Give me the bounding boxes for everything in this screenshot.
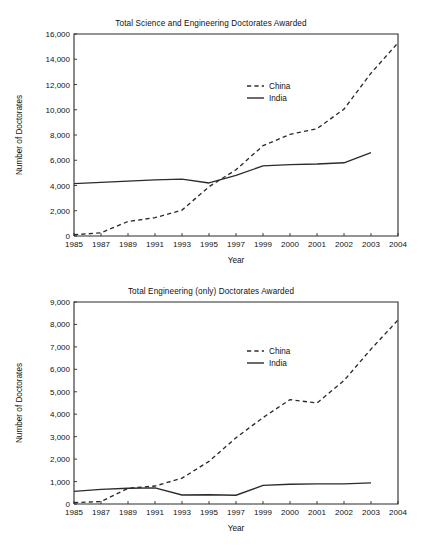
x-tick-label: 2003 (362, 508, 380, 517)
chart-svg: 02,0004,0006,0008,00010,00012,00014,0001… (0, 28, 422, 278)
x-tick-label: 2000 (281, 508, 299, 517)
x-tick-label: 2001 (308, 508, 326, 517)
x-tick-label: 1993 (173, 508, 191, 517)
x-tick-label: 2000 (281, 240, 299, 249)
x-tick-label: 1989 (119, 508, 137, 517)
y-tick-label: 4,000 (50, 182, 71, 191)
chart-svg: 01,0002,0003,0004,0005,0006,0007,0008,00… (0, 296, 422, 546)
x-tick-label: 2002 (335, 240, 353, 249)
series-line-china (74, 320, 398, 503)
y-tick-label: 8,000 (50, 131, 71, 140)
x-tick-label: 2004 (389, 240, 407, 249)
legend-label-china: China (269, 347, 291, 356)
y-tick-label: 6,000 (50, 156, 71, 165)
x-tick-label: 1993 (173, 240, 191, 249)
plot-area-wrapper: 01,0002,0003,0004,0005,0006,0007,0008,00… (0, 296, 422, 546)
series-line-india (74, 153, 371, 184)
legend-label-india: India (269, 94, 287, 103)
y-tick-label: 9,000 (50, 298, 71, 307)
plot-area-wrapper: 02,0004,0006,0008,00010,00012,00014,0001… (0, 28, 422, 278)
y-tick-label: 7,000 (50, 343, 71, 352)
chart-title: Total Engineering (only) Doctorates Awar… (0, 276, 422, 296)
x-tick-label: 1995 (200, 508, 218, 517)
x-tick-label: 1999 (254, 240, 272, 249)
y-tick-label: 8,000 (50, 320, 71, 329)
y-tick-label: 12,000 (46, 81, 71, 90)
y-tick-label: 14,000 (46, 55, 71, 64)
x-tick-label: 1987 (92, 508, 110, 517)
x-tick-label: 1995 (200, 240, 218, 249)
x-tick-label: 1991 (146, 240, 164, 249)
y-axis-label: Number of Doctorates (15, 363, 24, 443)
x-tick-label: 1985 (65, 240, 83, 249)
x-tick-label: 2004 (389, 508, 407, 517)
legend-label-india: India (269, 359, 287, 368)
chart-title: Total Science and Engineering Doctorates… (0, 0, 422, 28)
y-tick-label: 4,000 (50, 410, 71, 419)
x-tick-label: 1997 (227, 508, 245, 517)
y-tick-label: 16,000 (46, 30, 71, 39)
y-tick-label: 2,000 (50, 455, 71, 464)
chart-panel-engineering-only: Total Engineering (only) Doctorates Awar… (0, 276, 422, 546)
y-tick-label: 1,000 (50, 478, 71, 487)
x-tick-label: 2001 (308, 240, 326, 249)
series-line-china (74, 43, 398, 235)
x-tick-label: 1997 (227, 240, 245, 249)
x-axis-label: Year (228, 524, 245, 533)
x-axis-label: Year (228, 256, 245, 265)
y-tick-label: 6,000 (50, 365, 71, 374)
figure-page: Total Science and Engineering Doctorates… (0, 0, 422, 546)
x-tick-label: 2002 (335, 508, 353, 517)
x-tick-label: 1989 (119, 240, 137, 249)
y-tick-label: 10,000 (46, 106, 71, 115)
chart-panel-science-engineering: Total Science and Engineering Doctorates… (0, 0, 422, 276)
legend-label-china: China (269, 82, 291, 91)
y-tick-label: 5,000 (50, 388, 71, 397)
x-tick-label: 1985 (65, 508, 83, 517)
x-tick-label: 1991 (146, 508, 164, 517)
x-tick-label: 1999 (254, 508, 272, 517)
y-tick-label: 3,000 (50, 433, 71, 442)
y-tick-label: 2,000 (50, 207, 71, 216)
y-axis-label: Number of Doctorates (15, 95, 24, 175)
x-tick-label: 2003 (362, 240, 380, 249)
x-tick-label: 1987 (92, 240, 110, 249)
